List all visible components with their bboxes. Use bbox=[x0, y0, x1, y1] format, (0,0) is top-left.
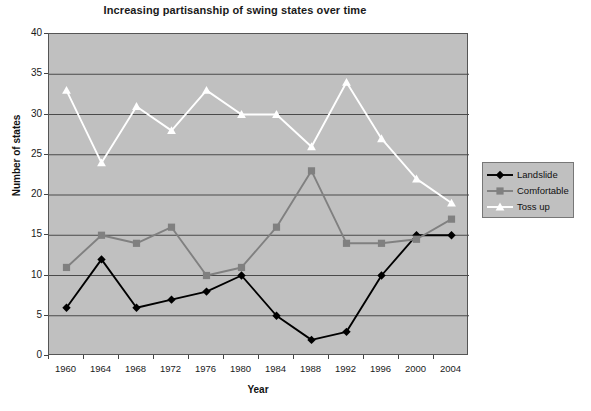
data-point-marker bbox=[63, 264, 70, 271]
data-point-marker bbox=[342, 78, 351, 86]
y-tick-label: 25 bbox=[12, 149, 42, 159]
data-point-marker bbox=[343, 240, 350, 247]
plot-svg bbox=[49, 34, 469, 356]
data-point-marker bbox=[238, 264, 245, 271]
data-point-marker bbox=[496, 187, 503, 194]
x-tick-label: 1960 bbox=[46, 364, 86, 374]
x-tick-label: 1980 bbox=[221, 364, 261, 374]
data-point-marker bbox=[413, 236, 420, 243]
legend-label: Comfortable bbox=[514, 186, 569, 196]
x-tick-label: 1976 bbox=[186, 364, 226, 374]
x-tick-label: 2000 bbox=[396, 364, 436, 374]
data-point-marker bbox=[168, 224, 175, 231]
chart-title: Increasing partisanship of swing states … bbox=[0, 4, 470, 16]
y-tick-label: 0 bbox=[12, 350, 42, 360]
y-tick-label: 10 bbox=[12, 270, 42, 280]
data-point-marker bbox=[448, 216, 455, 223]
x-axis-label: Year bbox=[48, 384, 468, 395]
data-point-marker bbox=[202, 287, 210, 295]
x-tick-label: 1964 bbox=[81, 364, 121, 374]
legend-label: Toss up bbox=[514, 202, 550, 212]
y-tick-label: 30 bbox=[12, 109, 42, 119]
series-line-toss-up bbox=[67, 82, 452, 203]
legend-marker-icon bbox=[486, 184, 514, 198]
legend-label: Landslide bbox=[514, 170, 558, 180]
x-tick-label: 1996 bbox=[361, 364, 401, 374]
y-tick-label: 35 bbox=[12, 68, 42, 78]
data-point-marker bbox=[62, 86, 71, 94]
legend-item-landslide[interactable]: Landslide bbox=[486, 167, 570, 183]
y-tick-label: 5 bbox=[12, 310, 42, 320]
data-point-marker bbox=[447, 231, 455, 239]
data-point-marker bbox=[273, 224, 280, 231]
data-point-marker bbox=[203, 272, 210, 279]
y-tick-label: 20 bbox=[12, 189, 42, 199]
plot-area bbox=[48, 33, 468, 355]
data-point-marker bbox=[202, 86, 211, 94]
y-tick-label: 40 bbox=[12, 28, 42, 38]
data-point-marker bbox=[496, 171, 504, 179]
x-tick-label: 1968 bbox=[116, 364, 156, 374]
x-tick-label: 1984 bbox=[256, 364, 296, 374]
data-point-marker bbox=[308, 167, 315, 174]
series-line-comfortable bbox=[67, 171, 452, 276]
y-tick-label: 15 bbox=[12, 229, 42, 239]
x-tick-label: 1992 bbox=[326, 364, 366, 374]
data-point-marker bbox=[378, 240, 385, 247]
x-tick-label: 1988 bbox=[291, 364, 331, 374]
legend-item-toss-up[interactable]: Toss up bbox=[486, 199, 570, 215]
series-line-landslide bbox=[67, 235, 452, 340]
data-point-marker bbox=[133, 240, 140, 247]
legend-marker-icon bbox=[486, 200, 514, 214]
x-tick-label: 1972 bbox=[151, 364, 191, 374]
x-tick-label: 2004 bbox=[431, 364, 471, 374]
data-point-marker bbox=[98, 232, 105, 239]
data-point-marker bbox=[167, 295, 175, 303]
chart-legend: LandslideComfortableToss up bbox=[482, 162, 574, 218]
data-point-marker bbox=[132, 102, 141, 110]
legend-marker-icon bbox=[486, 168, 514, 182]
legend-item-comfortable[interactable]: Comfortable bbox=[486, 183, 570, 199]
chart-container: Increasing partisanship of swing states … bbox=[0, 0, 591, 411]
